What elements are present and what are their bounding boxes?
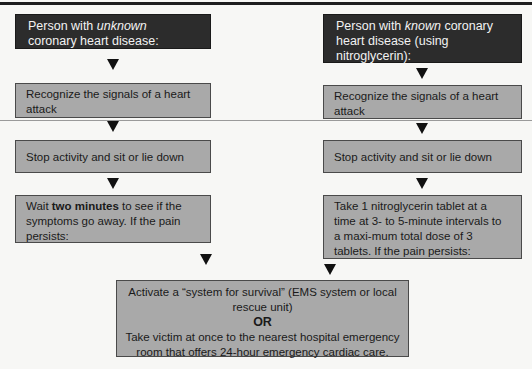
right-header-emphasis: known [405,19,441,33]
right-step-1-text: Recognize the signals of a heart attack [334,90,498,117]
arrow-down-icon [416,123,428,134]
left-step-3-bold: two minutes [52,200,119,212]
final-action-box: Activate a “system for survival” (EMS sy… [116,280,409,357]
right-step-2-text: Stop activity and sit or lie down [334,151,492,163]
left-header-suffix: coronary heart disease: [28,34,159,48]
left-step-1-text: Recognize the signals of a heart attack [26,88,190,115]
arrow-down-icon [324,264,336,275]
left-header-emphasis: unknown [97,19,147,33]
arrow-down-icon [107,59,119,70]
divider-line [0,120,532,121]
right-step-recognize: Recognize the signals of a heart attack [323,85,522,119]
arrow-down-icon [416,178,428,189]
left-step-3-prefix: Wait [26,200,52,212]
left-header-box: Person with unknown coronary heart disea… [15,14,211,49]
arrow-down-icon [107,121,119,132]
top-rule [0,2,532,5]
final-or-separator: OR [123,315,402,330]
arrow-down-icon [416,68,428,79]
left-step-wait: Wait two minutes to see if the symptoms … [15,195,211,243]
left-step-stop-activity: Stop activity and sit or lie down [15,140,211,173]
arrow-down-icon [107,178,119,189]
right-header-prefix: Person with [336,19,405,33]
arrow-down-icon [200,254,212,265]
right-header-box: Person with known coronary heart disease… [323,14,522,63]
left-step-2-text: Stop activity and sit or lie down [26,151,184,163]
left-step-recognize: Recognize the signals of a heart attack [15,83,211,118]
final-option-1: Activate a “system for survival” (EMS sy… [128,286,396,313]
final-option-2: Take victim at once to the nearest hospi… [125,331,399,358]
left-header-prefix: Person with [28,19,97,33]
right-step-3-text: Take 1 nitroglycerin tablet at a time at… [334,200,501,257]
right-step-nitroglycerin: Take 1 nitroglycerin tablet at a time at… [323,195,522,259]
right-step-stop-activity: Stop activity and sit or lie down [323,140,522,173]
